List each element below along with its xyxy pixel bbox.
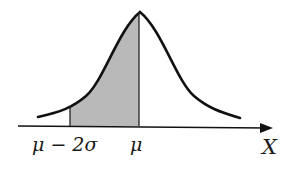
- label-x-axis: X: [260, 135, 278, 159]
- x-axis-arrowhead: [260, 123, 273, 133]
- label-mu: μ: [130, 133, 142, 155]
- label-mu-minus-2sigma: μ − 2σ: [32, 133, 98, 155]
- normal-curve-diagram: μ − 2σ μ X: [0, 0, 291, 172]
- x-axis: [18, 126, 268, 128]
